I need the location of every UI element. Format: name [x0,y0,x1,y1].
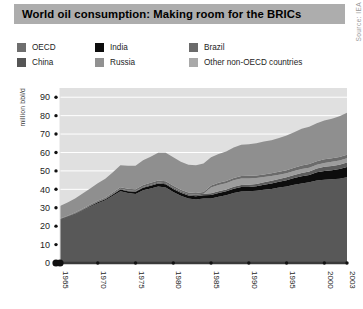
x-tick-marker [323,261,326,264]
x-tick-label: 1995 [288,271,297,289]
x-tick-marker [247,261,250,264]
y-tick-marker [54,169,57,172]
y-tick-label: 90 [40,92,50,102]
x-tick-marker [285,261,288,264]
x-tick-marker [96,261,99,264]
y-tick-label: 70 [40,129,50,139]
y-tick-marker [54,188,57,191]
x-tick-label: 1975 [137,271,146,289]
y-tick-marker [54,114,57,117]
plot-area: 0102030405060708090196519701975198019851… [0,0,363,309]
y-tick-marker [54,132,57,135]
x-tick-label: 1965 [61,271,70,289]
x-tick-marker [56,259,63,266]
y-tick-label: 0 [45,258,50,268]
x-tick-label: 2003 [348,271,357,289]
y-tick-label: 60 [40,148,50,158]
x-tick-label: 2000 [326,271,335,289]
x-tick-label: 1985 [212,271,221,289]
chart-svg: 0102030405060708090196519701975198019851… [0,0,363,309]
x-tick-marker [209,261,212,264]
x-tick-label: 1980 [174,271,183,289]
y-tick-marker [54,206,57,209]
x-tick-label: 1970 [99,271,108,289]
x-tick-marker [345,261,348,264]
y-tick-label: 10 [40,240,50,250]
y-tick-marker [54,224,57,227]
y-tick-label: 80 [40,111,50,121]
y-tick-label: 20 [40,221,50,231]
y-tick-label: 50 [40,166,50,176]
y-tick-marker [54,243,57,246]
y-tick-label: 30 [40,203,50,213]
y-tick-marker [54,151,57,154]
y-tick-marker [54,96,57,99]
x-tick-marker [172,261,175,264]
chart-figure: World oil consumption: Making room for t… [0,0,363,309]
x-tick-label: 1990 [250,271,259,289]
y-tick-label: 40 [40,185,50,195]
x-tick-marker [134,261,137,264]
